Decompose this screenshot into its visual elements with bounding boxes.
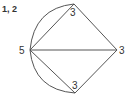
node-right-label: 3: [119, 45, 125, 56]
node-bottom-label: 3: [72, 80, 78, 91]
edge-top-right: [74, 4, 117, 50]
edge-bottom-right: [75, 50, 117, 93]
node-left-label: 5: [19, 45, 25, 56]
graph-diagram: 5 3 3 3: [0, 0, 127, 96]
node-top-label: 3: [70, 7, 76, 18]
